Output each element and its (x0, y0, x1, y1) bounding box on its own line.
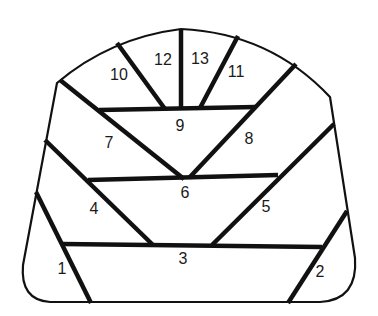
region-label-6: 6 (181, 185, 190, 201)
divider-7-9 (60, 80, 184, 179)
divider-2-5 (288, 211, 347, 303)
divider-6-top (88, 175, 278, 180)
divider-1-4 (36, 192, 91, 303)
region-label-11: 11 (228, 64, 245, 80)
region-label-2: 2 (316, 264, 325, 280)
region-label-13: 13 (191, 51, 209, 67)
region-label-7: 7 (105, 135, 114, 151)
divider-3-top (62, 244, 322, 247)
divider-5-8 (212, 124, 334, 245)
region-label-9: 9 (176, 118, 185, 134)
divider-8-9 (189, 64, 296, 178)
region-label-4: 4 (90, 201, 99, 217)
divider-9-top (99, 107, 256, 110)
region-label-3: 3 (179, 251, 188, 267)
divider-4-7 (45, 140, 153, 245)
region-label-5: 5 (262, 199, 271, 215)
region-label-10: 10 (110, 67, 128, 83)
region-label-1: 1 (58, 261, 67, 277)
region-label-12: 12 (154, 52, 172, 68)
region-label-8: 8 (245, 131, 254, 147)
